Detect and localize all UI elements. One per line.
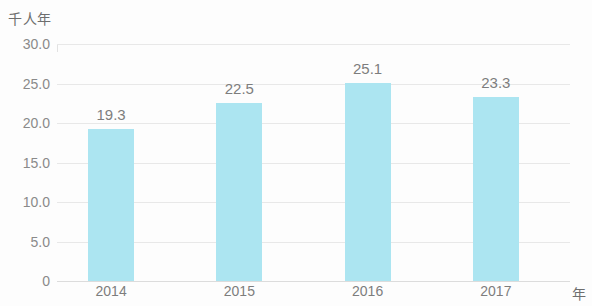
bar [88,129,134,281]
y-axis-tick-label: 20.0 [4,115,50,131]
y-axis-tick-label: 0 [4,273,50,289]
x-axis-tick-label: 2017 [456,283,536,299]
x-axis-tick-label: 2015 [199,283,279,299]
x-axis-tick-label: 2014 [71,283,151,299]
y-axis-tick-stub [57,44,58,52]
bar-value-label: 22.5 [199,80,279,97]
bar-value-label: 19.3 [71,106,151,123]
x-axis-tick-label: 2016 [328,283,408,299]
x-axis-tick-labels: 2014201520162017 [57,283,570,306]
y-axis-tick-label: 15.0 [4,155,50,171]
bar [345,83,391,281]
x-axis-unit-label: 年 [572,283,586,303]
gridline [57,44,570,45]
plot-area: 19.322.525.123.3 [57,44,570,281]
y-axis-tick-label: 25.0 [4,76,50,92]
y-axis-tick-labels: 05.010.015.020.025.030.0 [0,44,50,281]
y-axis-tick-label: 30.0 [4,36,50,52]
bar-value-label: 23.3 [456,74,536,91]
bar-chart: 千人年 05.010.015.020.025.030.0 19.322.525.… [0,0,592,306]
y-axis-tick-label: 5.0 [4,234,50,250]
y-axis-tick-label: 10.0 [4,194,50,210]
y-axis-unit-label: 千人年 [8,8,52,28]
bar-value-label: 25.1 [328,60,408,77]
bar [473,97,519,281]
gridline [57,281,570,282]
bar [216,103,262,281]
